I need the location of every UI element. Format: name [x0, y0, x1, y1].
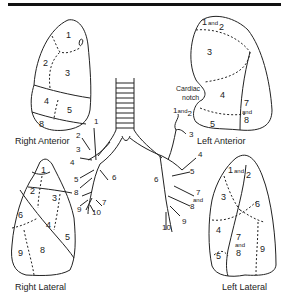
segment-label: 5	[210, 119, 215, 129]
segment-label: 4	[44, 96, 49, 106]
svg-text:8: 8	[236, 248, 241, 258]
svg-text:9: 9	[260, 244, 265, 254]
segment-label: 8	[39, 119, 44, 129]
segment-label: 5	[67, 105, 72, 115]
segment-label: 2	[43, 58, 48, 68]
svg-text:5: 5	[65, 232, 70, 242]
svg-text:1: 1	[94, 117, 99, 126]
svg-text:2: 2	[30, 186, 35, 196]
svg-text:1and2: 1and2	[173, 106, 192, 118]
svg-text:6: 6	[255, 199, 260, 209]
right-lateral-segment-labels: 1 2 3 4 5 6 8 9	[18, 165, 70, 258]
right-bronchial-tree	[80, 128, 122, 214]
svg-text:7: 7	[244, 98, 249, 108]
right-anterior-segment-labels: 1 2 3 4 5 8	[39, 30, 72, 129]
svg-text:3: 3	[189, 130, 194, 139]
svg-text:3: 3	[52, 193, 57, 203]
left-anterior-lung	[191, 16, 272, 130]
right-anterior-caption: Right Anterior	[15, 136, 70, 146]
svg-text:2: 2	[246, 170, 251, 180]
segment-label: 3	[207, 47, 212, 57]
svg-text:6: 6	[18, 210, 23, 220]
left-lateral-caption: Left Lateral	[222, 282, 267, 292]
svg-text:7: 7	[102, 198, 107, 207]
left-anterior-caption: Left Anterior	[197, 136, 246, 146]
svg-text:4: 4	[198, 150, 203, 159]
segment-label: 1	[66, 30, 71, 40]
svg-text:7: 7	[196, 188, 201, 197]
right-bronchus-labels: 1 2 3 4 5 6 7 8 9 10	[70, 117, 117, 217]
svg-text:8: 8	[244, 115, 249, 125]
svg-text:8: 8	[190, 202, 195, 211]
svg-text:notch: notch	[182, 94, 199, 101]
svg-text:9: 9	[77, 205, 82, 214]
svg-text:3: 3	[76, 145, 81, 154]
svg-text:8: 8	[40, 245, 45, 255]
segment-label: 4	[220, 90, 225, 100]
svg-text:8: 8	[74, 188, 79, 197]
svg-text:3: 3	[221, 192, 226, 202]
trachea	[98, 78, 162, 158]
svg-text:5: 5	[216, 251, 221, 261]
cardiac-notch-label: Cardiac	[176, 85, 201, 92]
svg-text:5: 5	[190, 167, 195, 176]
right-lateral-caption: Right Lateral	[15, 282, 66, 292]
svg-text:7: 7	[236, 232, 241, 242]
segment-label: 3	[65, 68, 70, 78]
svg-text:5: 5	[74, 175, 79, 184]
svg-text:6: 6	[112, 173, 117, 182]
svg-text:and: and	[193, 197, 203, 203]
svg-text:9: 9	[18, 248, 23, 258]
svg-text:1and: 1and	[228, 165, 244, 175]
svg-text:10: 10	[92, 208, 101, 217]
svg-text:4: 4	[70, 158, 75, 167]
svg-text:9: 9	[182, 217, 187, 226]
lung-segments-diagram: 1 2 3 4 5 8 1and2 3 4 5 7 and 8 Cardiac …	[0, 0, 281, 294]
right-anterior-lung	[31, 20, 91, 131]
svg-text:1: 1	[41, 165, 46, 175]
svg-text:6: 6	[154, 175, 159, 184]
svg-text:10: 10	[162, 223, 171, 232]
left-bronchial-tree	[130, 114, 196, 232]
svg-text:2: 2	[76, 131, 81, 140]
svg-text:4: 4	[216, 225, 221, 235]
svg-text:4: 4	[46, 220, 51, 230]
